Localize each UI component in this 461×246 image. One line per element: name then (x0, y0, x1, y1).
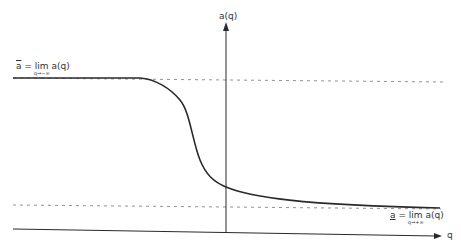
x-axis-arrow-icon (434, 233, 442, 239)
upper-limit-equals: = (24, 61, 32, 71)
lower-limit-function: a(q) (425, 210, 443, 220)
lower-limit-label: a = lim q→+∞ a(q) (390, 211, 444, 220)
x-axis (13, 229, 436, 236)
lower-limit-symbol: a (390, 210, 396, 220)
upper-limit-function: a(q) (51, 61, 69, 71)
y-axis-arrow-icon (223, 22, 229, 31)
lower-limit-subscript: q→+∞ (408, 220, 424, 225)
lower-limit-equals: = (398, 210, 406, 220)
upper-limit-symbol: a (16, 61, 22, 71)
x-axis-label: q (447, 231, 453, 240)
upper-limit-subscript: q→−∞ (34, 71, 50, 76)
y-axis-label: a(q) (219, 12, 237, 21)
upper-limit-label: a = lim q→−∞ a(q) (16, 62, 70, 71)
